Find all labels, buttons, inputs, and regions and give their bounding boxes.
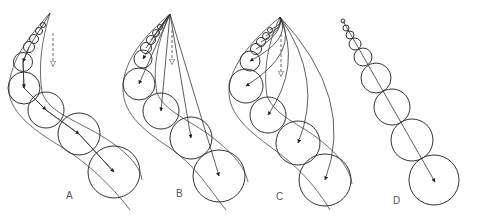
panel-b: [123, 14, 245, 202]
arrow-icon: [23, 62, 24, 88]
panel-d: [341, 19, 459, 205]
circle: [391, 119, 433, 161]
arrow-icon: [79, 134, 114, 172]
arrow-icon: [280, 17, 334, 180]
arrow-icon: [170, 14, 219, 176]
panel-label-c: C: [276, 191, 283, 202]
panel-label-d: D: [393, 195, 400, 206]
panel-a-envelope: [9, 13, 142, 210]
arrow-icon: [343, 21, 435, 182]
panel-c: [229, 17, 351, 206]
panel-label-b: B: [176, 188, 183, 199]
arrow-icon: [24, 88, 46, 110]
arrow-icon: [280, 17, 308, 143]
trajectory-line: [23, 13, 114, 172]
arrow-icon: [146, 14, 170, 48]
diagram-canvas: A B C D: [0, 0, 480, 217]
circle: [349, 38, 361, 50]
panel-label-a: A: [66, 190, 73, 201]
panel-b-envelope: [123, 14, 248, 210]
panel-a: [8, 13, 140, 198]
circle: [354, 48, 372, 66]
arrow-icon: [139, 14, 170, 84]
